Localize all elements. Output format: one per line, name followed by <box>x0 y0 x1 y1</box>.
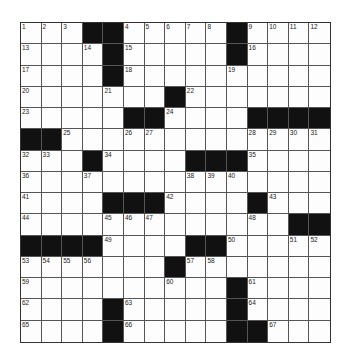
grid-cell[interactable]: 16 <box>248 44 269 65</box>
grid-cell[interactable] <box>289 87 310 108</box>
grid-cell[interactable] <box>42 108 63 129</box>
grid-cell[interactable]: 43 <box>268 193 289 214</box>
grid-cell[interactable]: 33 <box>42 151 63 172</box>
grid-cell[interactable] <box>186 321 207 342</box>
grid-cell[interactable]: 29 <box>268 129 289 150</box>
grid-cell[interactable] <box>42 66 63 87</box>
grid-cell[interactable] <box>62 66 83 87</box>
grid-cell[interactable] <box>165 172 186 193</box>
grid-cell[interactable] <box>268 299 289 320</box>
grid-cell[interactable] <box>145 321 166 342</box>
grid-cell[interactable]: 19 <box>227 66 248 87</box>
grid-cell[interactable] <box>309 172 330 193</box>
grid-cell[interactable]: 58 <box>206 257 227 278</box>
grid-cell[interactable]: 57 <box>186 257 207 278</box>
grid-cell[interactable] <box>145 44 166 65</box>
grid-cell[interactable] <box>165 129 186 150</box>
grid-cell[interactable]: 44 <box>21 214 42 235</box>
grid-cell[interactable] <box>309 87 330 108</box>
grid-cell[interactable]: 9 <box>248 23 269 44</box>
grid-cell[interactable] <box>309 321 330 342</box>
grid-cell[interactable] <box>186 108 207 129</box>
grid-cell[interactable] <box>309 193 330 214</box>
grid-cell[interactable] <box>83 214 104 235</box>
grid-cell[interactable] <box>124 151 145 172</box>
grid-cell[interactable]: 52 <box>309 236 330 257</box>
grid-cell[interactable] <box>268 172 289 193</box>
grid-cell[interactable] <box>206 278 227 299</box>
grid-cell[interactable] <box>165 44 186 65</box>
grid-cell[interactable] <box>289 172 310 193</box>
grid-cell[interactable]: 6 <box>165 23 186 44</box>
grid-cell[interactable] <box>62 44 83 65</box>
grid-cell[interactable]: 20 <box>21 87 42 108</box>
grid-cell[interactable]: 56 <box>83 257 104 278</box>
grid-cell[interactable] <box>83 278 104 299</box>
grid-cell[interactable]: 47 <box>145 214 166 235</box>
grid-cell[interactable]: 22 <box>186 87 207 108</box>
grid-cell[interactable]: 21 <box>103 87 124 108</box>
grid-cell[interactable]: 36 <box>21 172 42 193</box>
grid-cell[interactable] <box>186 278 207 299</box>
grid-cell[interactable] <box>289 321 310 342</box>
grid-cell[interactable] <box>83 66 104 87</box>
grid-cell[interactable] <box>289 193 310 214</box>
grid-cell[interactable] <box>62 299 83 320</box>
grid-cell[interactable]: 35 <box>248 151 269 172</box>
grid-cell[interactable] <box>309 257 330 278</box>
grid-cell[interactable] <box>248 172 269 193</box>
grid-cell[interactable] <box>268 66 289 87</box>
grid-cell[interactable] <box>42 44 63 65</box>
grid-cell[interactable] <box>62 108 83 129</box>
grid-cell[interactable] <box>289 151 310 172</box>
grid-cell[interactable] <box>83 87 104 108</box>
grid-cell[interactable]: 7 <box>186 23 207 44</box>
grid-cell[interactable]: 64 <box>248 299 269 320</box>
grid-cell[interactable] <box>165 151 186 172</box>
grid-cell[interactable] <box>227 214 248 235</box>
grid-cell[interactable] <box>124 172 145 193</box>
grid-cell[interactable] <box>103 108 124 129</box>
grid-cell[interactable]: 61 <box>248 278 269 299</box>
grid-cell[interactable] <box>62 278 83 299</box>
grid-cell[interactable] <box>165 321 186 342</box>
grid-cell[interactable] <box>186 299 207 320</box>
grid-cell[interactable]: 18 <box>124 66 145 87</box>
grid-cell[interactable]: 60 <box>165 278 186 299</box>
grid-cell[interactable] <box>62 214 83 235</box>
grid-cell[interactable] <box>62 87 83 108</box>
grid-cell[interactable] <box>227 87 248 108</box>
grid-cell[interactable]: 13 <box>21 44 42 65</box>
grid-cell[interactable] <box>268 257 289 278</box>
grid-cell[interactable]: 4 <box>124 23 145 44</box>
grid-cell[interactable] <box>124 236 145 257</box>
grid-cell[interactable] <box>268 236 289 257</box>
grid-cell[interactable]: 10 <box>268 23 289 44</box>
grid-cell[interactable] <box>145 257 166 278</box>
grid-cell[interactable] <box>206 321 227 342</box>
grid-cell[interactable] <box>289 278 310 299</box>
grid-cell[interactable]: 2 <box>42 23 63 44</box>
grid-cell[interactable] <box>227 108 248 129</box>
grid-cell[interactable] <box>124 278 145 299</box>
grid-cell[interactable] <box>145 66 166 87</box>
grid-cell[interactable]: 45 <box>103 214 124 235</box>
grid-cell[interactable] <box>165 214 186 235</box>
grid-cell[interactable] <box>248 236 269 257</box>
grid-cell[interactable]: 63 <box>124 299 145 320</box>
grid-cell[interactable] <box>206 299 227 320</box>
grid-cell[interactable]: 66 <box>124 321 145 342</box>
grid-cell[interactable] <box>289 44 310 65</box>
grid-cell[interactable]: 41 <box>21 193 42 214</box>
grid-cell[interactable]: 34 <box>103 151 124 172</box>
grid-cell[interactable]: 55 <box>62 257 83 278</box>
grid-cell[interactable] <box>145 278 166 299</box>
grid-cell[interactable] <box>83 321 104 342</box>
grid-cell[interactable] <box>186 214 207 235</box>
grid-cell[interactable] <box>62 193 83 214</box>
grid-cell[interactable] <box>309 66 330 87</box>
grid-cell[interactable]: 11 <box>289 23 310 44</box>
grid-cell[interactable] <box>42 193 63 214</box>
grid-cell[interactable] <box>124 87 145 108</box>
grid-cell[interactable] <box>165 236 186 257</box>
